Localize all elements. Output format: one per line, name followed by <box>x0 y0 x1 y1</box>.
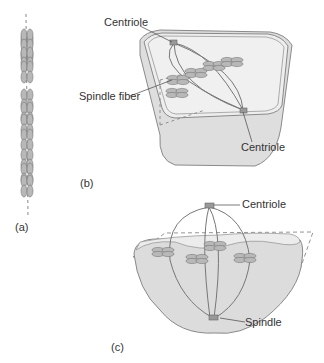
spindle-fiber-label: Spindle fiber <box>79 91 140 102</box>
centriole-top-label: Centriole <box>104 17 148 28</box>
panel-c-cell <box>133 203 313 333</box>
panel-c-label: (c) <box>111 342 124 353</box>
centriole-bottom-label: Centriole <box>241 142 285 153</box>
spindle-label: Spindle <box>245 317 282 328</box>
panel-a-label: (a) <box>15 222 28 233</box>
spindle-diagram <box>0 0 324 363</box>
panel-a-chromosomes <box>21 14 33 218</box>
centriole-label: Centriole <box>242 199 286 210</box>
panel-b-label: (b) <box>80 178 93 189</box>
